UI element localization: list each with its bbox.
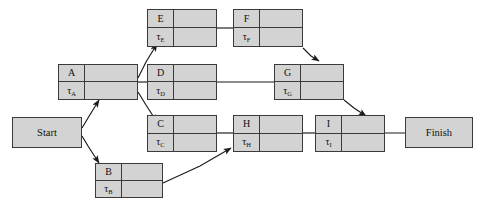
node-i-early-field xyxy=(342,116,384,134)
edge-f-g xyxy=(303,48,319,61)
node-a-tau-sub: A xyxy=(71,90,76,97)
node-d-early-field xyxy=(174,65,216,82)
node-e-late-field xyxy=(174,28,216,46)
node-start[interactable]: Start xyxy=(12,117,82,148)
edge-g-i xyxy=(344,100,366,116)
node-h[interactable]: H τH xyxy=(233,115,303,152)
node-b-late-field xyxy=(122,181,162,198)
node-g-duration: τG xyxy=(275,82,301,99)
node-i-id: I xyxy=(316,116,342,134)
node-a-duration: τA xyxy=(59,82,85,99)
node-c[interactable]: C τC xyxy=(147,115,217,152)
node-f-duration: τF xyxy=(234,28,260,46)
node-b[interactable]: B τB xyxy=(95,163,163,198)
node-d-late-field xyxy=(174,82,216,99)
node-i-late-field xyxy=(342,134,384,152)
node-b-duration: τB xyxy=(96,181,122,198)
node-d[interactable]: D τD xyxy=(147,64,217,100)
node-e[interactable]: E τE xyxy=(147,9,217,47)
edge-b-h xyxy=(163,148,231,183)
node-c-id: C xyxy=(148,116,174,134)
node-e-id: E xyxy=(148,10,174,28)
node-g-id: G xyxy=(275,65,301,82)
node-c-late-field xyxy=(174,134,216,152)
node-f[interactable]: F τF xyxy=(233,9,303,47)
edge-start-b xyxy=(82,136,99,163)
node-d-tau-sub: D xyxy=(160,90,165,97)
node-finish[interactable]: Finish xyxy=(405,117,473,148)
node-start-label: Start xyxy=(37,127,57,138)
node-h-tau-sub: H xyxy=(246,141,251,148)
node-e-tau-sub: E xyxy=(161,36,165,43)
node-c-early-field xyxy=(174,116,216,134)
node-h-late-field xyxy=(260,134,302,152)
node-a-late-field xyxy=(85,82,137,99)
node-f-early-field xyxy=(260,10,302,28)
node-e-duration: τE xyxy=(148,28,174,46)
node-b-early-field xyxy=(122,164,162,181)
node-f-id: F xyxy=(234,10,260,28)
edge-start-a xyxy=(82,100,99,128)
node-b-tau-sub: B xyxy=(108,188,112,195)
node-h-id: H xyxy=(234,116,260,134)
node-a-early-field xyxy=(85,65,137,82)
node-i[interactable]: I τI xyxy=(315,115,385,152)
node-g-tau-sub: G xyxy=(287,90,292,97)
node-d-duration: τD xyxy=(148,82,174,99)
node-finish-label: Finish xyxy=(426,127,452,138)
node-a[interactable]: A τA xyxy=(58,64,138,100)
node-d-id: D xyxy=(148,65,174,82)
node-f-tau-sub: F xyxy=(247,36,251,43)
node-h-duration: τH xyxy=(234,134,260,152)
node-g-late-field xyxy=(301,82,343,99)
node-c-duration: τC xyxy=(148,134,174,152)
node-i-tau-sub: I xyxy=(329,141,331,148)
node-a-id: A xyxy=(59,65,85,82)
node-b-id: B xyxy=(96,164,122,181)
node-e-early-field xyxy=(174,10,216,28)
node-f-late-field xyxy=(260,28,302,46)
node-h-early-field xyxy=(260,116,302,134)
node-e-tau: τ xyxy=(156,31,160,42)
node-i-duration: τI xyxy=(316,134,342,152)
diagram-canvas: Start Finish A τA B τB C τC D τD xyxy=(0,0,484,212)
node-c-tau-sub: C xyxy=(160,141,164,148)
node-g-early-field xyxy=(301,65,343,82)
node-g[interactable]: G τG xyxy=(274,64,344,100)
